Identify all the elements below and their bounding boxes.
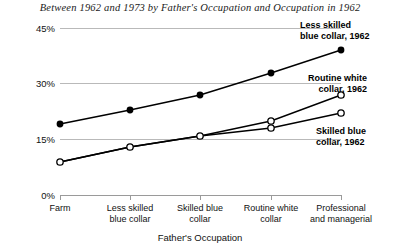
marker-less-skilled-0 — [57, 121, 64, 128]
series-label-less-skilled: Less skilled blue collar, 1962 — [300, 20, 370, 41]
marker-routine-white-0 — [57, 159, 63, 165]
series-label-routine-white-line2: collar, 1962 — [308, 84, 367, 95]
marker-less-skilled-1 — [127, 107, 134, 114]
series-line-routine-white — [60, 95, 341, 162]
x-label-professional-line2: and managerial — [286, 214, 396, 225]
marker-skilled-blue-4 — [338, 110, 344, 116]
x-label-professional-line1: Professional — [286, 203, 396, 214]
chart-root: Between 1962 and 1973 by Father's Occupa… — [0, 0, 400, 248]
series-line-less-skilled — [60, 50, 341, 124]
marker-less-skilled-3 — [268, 70, 275, 77]
series-label-skilled-blue-line2: collar, 1962 — [316, 137, 366, 148]
series-label-less-skilled-line2: blue collar, 1962 — [300, 31, 370, 42]
marker-skilled-blue-3 — [268, 125, 274, 131]
marker-routine-white-3 — [268, 118, 274, 124]
marker-less-skilled-2 — [197, 92, 204, 99]
marker-less-skilled-4 — [338, 47, 345, 54]
series-label-skilled-blue-line1: Skilled blue — [316, 126, 366, 137]
marker-routine-white-1 — [127, 144, 133, 150]
series-label-skilled-blue: Skilled blue collar, 1962 — [316, 126, 366, 147]
series-label-less-skilled-line1: Less skilled — [300, 20, 370, 31]
x-label-professional-managerial: Professional and managerial — [286, 203, 396, 224]
marker-routine-white-2 — [197, 133, 203, 139]
x-axis-title: Father's Occupation — [0, 232, 400, 243]
series-label-routine-white: Routine white collar, 1962 — [308, 73, 367, 94]
series-label-routine-white-line1: Routine white — [308, 73, 367, 84]
